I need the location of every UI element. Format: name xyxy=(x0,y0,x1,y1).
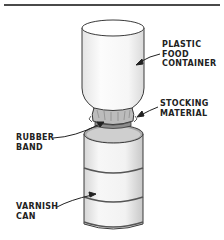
label-line: MATERIAL xyxy=(160,109,209,119)
label-stocking-material: STOCKING MATERIAL xyxy=(160,99,209,118)
varnish-can xyxy=(84,125,143,229)
label-line: RUBBER xyxy=(16,133,54,143)
label-line: CAN xyxy=(16,212,58,222)
label-plastic-food-container: PLASTIC FOOD CONTAINER xyxy=(162,40,216,69)
label-line: VARNISH xyxy=(16,202,58,212)
label-line: CONTAINER xyxy=(162,59,216,69)
label-line: FOOD xyxy=(162,50,216,60)
label-rubber-band: RUBBER BAND xyxy=(16,133,54,152)
label-varnish-can: VARNISH CAN xyxy=(16,202,58,221)
label-line: STOCKING xyxy=(160,99,209,109)
plastic-food-container xyxy=(82,20,144,114)
label-line: PLASTIC xyxy=(162,40,216,50)
label-line: BAND xyxy=(16,143,54,153)
